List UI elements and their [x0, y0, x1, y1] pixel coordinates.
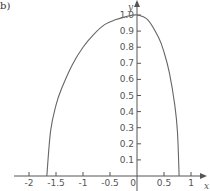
y-axis-label: y [127, 2, 134, 12]
y-tick-label: 0.4 [120, 107, 135, 117]
y-tick-label: 0.6 [120, 74, 135, 84]
panel-label: b) [0, 0, 10, 11]
x-tick-label: 1 [188, 178, 194, 188]
x-axis-arrow-icon [200, 173, 207, 179]
chart: b) -2-1.5-1-0.500.51 0.10.20.30.40.50.60… [0, 0, 210, 191]
x-tick-label: -1.5 [47, 178, 65, 188]
x-tick-label: -2 [25, 178, 34, 188]
y-axis-arrow-icon [134, 0, 140, 7]
curve-line [47, 15, 179, 176]
y-tick-label: 0.9 [120, 26, 135, 36]
y-tick-label: 0.2 [120, 139, 134, 149]
axes [14, 0, 207, 191]
y-tick-label: 0.8 [120, 42, 135, 52]
x-tick-label: 0.5 [157, 178, 171, 188]
x-tick-label: -0.5 [101, 178, 119, 188]
x-axis-label: x [204, 181, 209, 191]
y-ticks: 0.10.20.30.40.50.60.70.80.91.0 [120, 10, 141, 165]
y-tick-label: 0.5 [120, 91, 134, 101]
y-tick-label: 0.3 [120, 123, 134, 133]
x-ticks: -2-1.5-1-0.500.51 [25, 172, 194, 188]
x-tick-label: 0 [130, 178, 136, 188]
y-tick-label: 0.7 [120, 58, 134, 68]
x-tick-label: -1 [79, 178, 88, 188]
y-tick-label: 0.1 [120, 155, 134, 165]
